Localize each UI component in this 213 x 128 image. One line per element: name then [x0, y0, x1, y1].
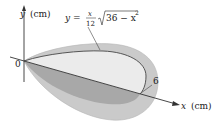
solid-figure: y (cm) x (cm) 0 6 y = x 12 36 − x 2: [0, 0, 213, 128]
svg-text:2: 2: [135, 9, 139, 16]
svg-text:y =: y =: [64, 13, 81, 23]
origin-label: 0: [15, 59, 21, 69]
curve-equation: y = x 12 36 − x 2: [64, 9, 139, 28]
x-end-label: 6: [153, 76, 159, 86]
x-axis-label: x (cm): [181, 101, 212, 111]
svg-text:12: 12: [86, 20, 95, 28]
x-axis-arrow-icon: [172, 101, 180, 106]
svg-text:36 − x: 36 − x: [106, 13, 136, 23]
svg-text:x: x: [88, 10, 92, 18]
y-axis-label: y (cm): [19, 9, 51, 19]
